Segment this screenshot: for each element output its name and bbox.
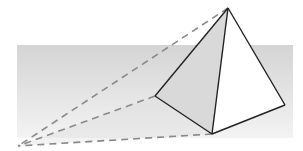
pyramid-perspective-diagram [0,0,303,151]
diagram-canvas [0,0,303,151]
